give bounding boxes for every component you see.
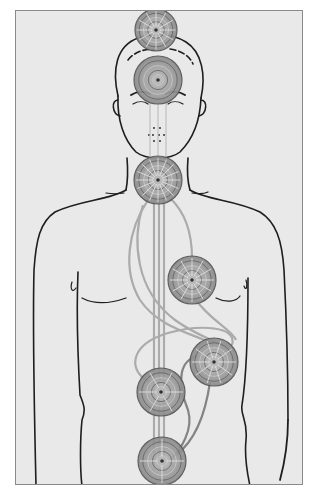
energy-channels bbox=[129, 196, 236, 470]
chakra-throat: Throat chakra bbox=[134, 156, 182, 204]
chakra-heart: Heart chakra bbox=[168, 256, 216, 304]
chakra-layer: Crown chakraBrow chakraThroat chakraHear… bbox=[134, 9, 238, 485]
chakra-root: Root chakra bbox=[138, 437, 186, 485]
chakra-crown: Crown chakra bbox=[135, 9, 177, 51]
chakra-sacral: Sacral chakra bbox=[137, 368, 185, 416]
chakra-solar-plexus: Solar plexus chakra bbox=[190, 338, 238, 386]
chakra-brow: Brow chakra bbox=[134, 56, 182, 104]
chakra-body-illustration: Crown chakraBrow chakraThroat chakraHear… bbox=[0, 0, 317, 496]
